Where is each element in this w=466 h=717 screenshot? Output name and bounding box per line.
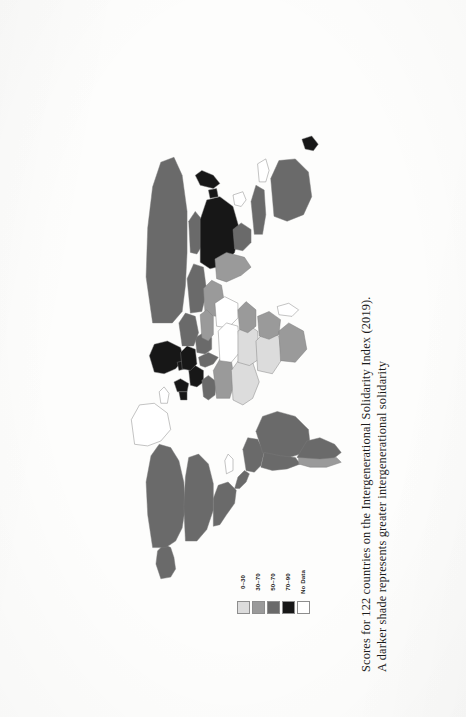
- region-ireland: [179, 391, 187, 399]
- legend-label-70-90: 70–90: [283, 573, 293, 591]
- region-united-states: [184, 454, 214, 541]
- region-horn-of-africa: [238, 301, 256, 332]
- legend-items: 0–30 30–70 50–70 70–90 No Data: [236, 552, 312, 614]
- legend-label-30-70: 30–70: [253, 573, 263, 591]
- region-japan: [195, 170, 220, 188]
- region-philippines: [233, 191, 246, 206]
- legend-item-no-data: No Data: [296, 577, 310, 614]
- region-united-kingdom: [174, 378, 189, 391]
- region-libya-egypt: [218, 322, 239, 361]
- region-caribbean: [225, 454, 233, 474]
- legend-swatch-50-70: [267, 601, 280, 614]
- region-ukraine-belarus: [179, 313, 199, 346]
- caption-line-2: A darker shade represents greater interg…: [375, 361, 390, 672]
- map-canvas: [110, 113, 356, 605]
- map-legend: 0–30 30–70 50–70 70–90 No Data: [236, 552, 312, 614]
- caption-line-1: Scores for 122 countries on the Intergen…: [359, 296, 374, 672]
- region-greenland: [131, 403, 170, 446]
- legend-label-50-70: 50–70: [268, 573, 278, 591]
- legend-swatch-no-data: [297, 601, 310, 614]
- region-southern-africa: [279, 322, 307, 361]
- region-mongolia: [189, 211, 202, 254]
- region-central-america: [235, 470, 250, 488]
- region-alaska: [156, 544, 176, 578]
- legend-swatch-30-70: [252, 601, 265, 614]
- region-papua-new-guinea: [258, 158, 269, 181]
- region-west-africa: [231, 359, 259, 405]
- region-russia: [146, 157, 187, 323]
- region-morocco-algeria: [213, 359, 234, 398]
- legend-item-70-90: 70–90: [281, 577, 295, 614]
- region-germany-poland: [181, 345, 197, 370]
- region-canada: [146, 444, 185, 547]
- region-south-korea: [208, 188, 218, 198]
- legend-swatch-0-30: [237, 601, 250, 614]
- region-australia: [271, 158, 312, 220]
- world-choropleth-map: [0, 0, 466, 717]
- legend-item-30-70: 30–70: [251, 577, 265, 614]
- legend-label-no-data: No Data: [298, 570, 308, 594]
- legend-item-50-70: 50–70: [266, 577, 280, 614]
- region-india: [215, 252, 251, 282]
- figure-caption: Scores for 122 countries on the Intergen…: [348, 300, 388, 680]
- region-italy: [199, 352, 219, 367]
- region-madagascar: [277, 303, 298, 316]
- map-svg: [110, 113, 356, 605]
- region-indonesia: [251, 185, 266, 234]
- map-land-layer: [131, 135, 341, 578]
- legend-swatch-70-90: [282, 601, 295, 614]
- region-mexico: [213, 482, 236, 526]
- region-east-africa: [258, 311, 281, 339]
- region-iceland: [159, 386, 169, 402]
- legend-item-0-30: 0–30: [236, 577, 250, 614]
- region-new-zealand: [302, 135, 318, 150]
- legend-label-0-30: 0–30: [238, 575, 248, 589]
- region-arabia: [215, 296, 238, 327]
- figure-page: 0–30 30–70 50–70 70–90 No Data Score: [0, 0, 466, 717]
